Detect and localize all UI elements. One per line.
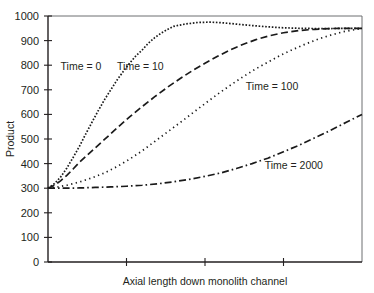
y-tick-label: 500 <box>21 133 39 145</box>
series-label-3: Time = 2000 <box>265 159 323 171</box>
series-label-2: Time = 100 <box>246 80 299 92</box>
axes <box>48 16 362 262</box>
y-tick-label: 300 <box>21 182 39 194</box>
y-tick-label: 1000 <box>15 10 39 22</box>
x-axis-title: Axial length down monolith channel <box>123 275 288 287</box>
y-tick-label: 700 <box>21 84 39 96</box>
product-vs-axial-length-chart: 01002003004005006007008009001000 Time = … <box>0 0 374 293</box>
y-tick-label: 100 <box>21 231 39 243</box>
y-axis-ticks: 01002003004005006007008009001000 <box>15 10 52 268</box>
series-label-1: Time = 10 <box>117 60 164 72</box>
y-axis-title: Product <box>4 121 16 157</box>
series-annotation-group: Time = 0Time = 10Time = 100Time = 2000 <box>61 60 324 170</box>
y-tick-label: 0 <box>33 256 39 268</box>
y-tick-label: 900 <box>21 35 39 47</box>
y-tick-label: 200 <box>21 207 39 219</box>
plot-frame <box>48 16 362 262</box>
y-tick-label: 400 <box>21 158 39 170</box>
series-curve-3 <box>48 114 362 188</box>
y-tick-label: 800 <box>21 59 39 71</box>
chart-figure: 01002003004005006007008009001000 Time = … <box>0 0 374 293</box>
y-tick-label: 600 <box>21 108 39 120</box>
series-label-0: Time = 0 <box>61 60 102 72</box>
